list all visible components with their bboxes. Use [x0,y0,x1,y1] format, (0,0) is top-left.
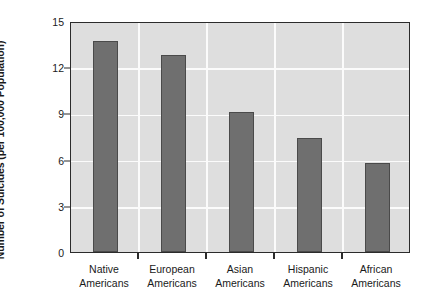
y-tick-label: 6 [40,155,64,166]
x-category-label-line: Americans [270,276,346,290]
bar-native-americans [93,41,118,252]
plot-area [70,22,410,253]
y-tick-label: 3 [40,202,64,213]
x-category-label: EuropeanAmericans [134,262,210,290]
x-category-label-line: Hispanic [270,262,346,276]
x-category-label: AsianAmericans [202,262,278,290]
x-category-label-line: Asian [202,262,278,276]
x-category-label: NativeAmericans [66,262,142,290]
x-category-label-line: Americans [202,276,278,290]
x-tick-mark [205,253,207,259]
bar-asian-americans [229,112,254,252]
bar-chart-figure: Number of Suicides (per 100,000 Populati… [0,0,433,300]
y-tick-label: 12 [40,63,64,74]
bar-african-americans [365,163,390,252]
y-tick-label: 15 [40,17,64,28]
x-axis-tick-marks [0,253,433,261]
y-tick-label: 9 [40,109,64,120]
x-category-label: AfricanAmericans [338,262,414,290]
x-category-label-line: European [134,262,210,276]
x-tick-mark [137,253,139,259]
bar-hispanic-americans [297,138,322,252]
gridline-vertical [138,23,140,252]
x-axis-category-labels: NativeAmericansEuropeanAmericansAsianAme… [0,262,433,300]
gridline-vertical [274,23,276,252]
x-category-label-line: Americans [338,276,414,290]
x-category-label-line: Native [66,262,142,276]
gridline-vertical [342,23,344,252]
x-category-label-line: Americans [66,276,142,290]
x-tick-mark [341,253,343,259]
x-category-label-line: Americans [134,276,210,290]
y-axis-title-text: Number of Suicides (per 100,000 Populati… [0,41,5,260]
x-category-label: HispanicAmericans [270,262,346,290]
gridline-vertical [206,23,208,252]
x-category-label-line: African [338,262,414,276]
gridline-horizontal [71,68,409,70]
x-tick-mark [273,253,275,259]
bar-european-americans [161,55,186,252]
